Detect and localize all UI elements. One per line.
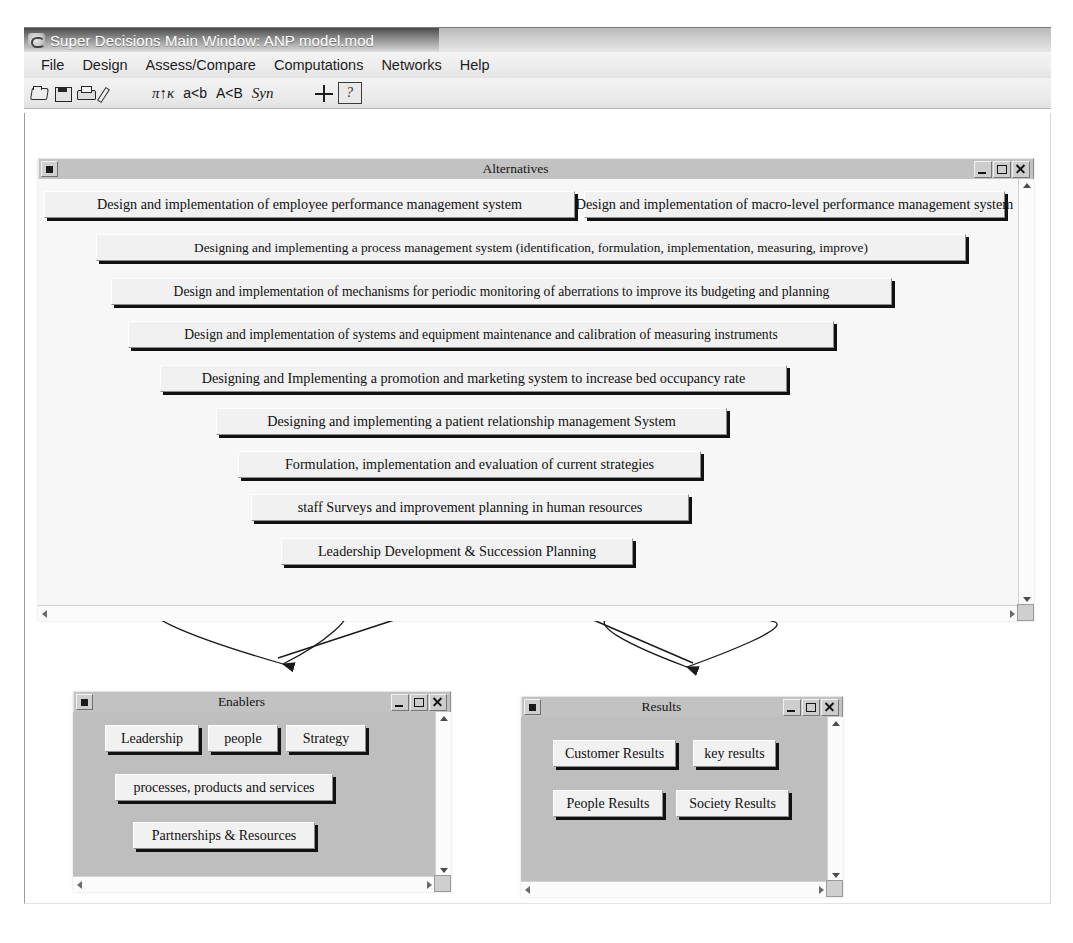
alternatives-close-button[interactable] [1012, 161, 1030, 178]
scroll-up-icon[interactable] [1023, 183, 1031, 188]
menu-bar: File Design Assess/Compare Computations … [24, 52, 1051, 78]
scroll-right-icon[interactable] [819, 886, 824, 894]
pencil-icon[interactable] [99, 84, 119, 103]
results-titlebar[interactable]: Results [521, 696, 843, 717]
window-titlebar[interactable]: Super Decisions Main Window: ANP model.m… [24, 27, 1051, 52]
toolbar-A-lt-B-button[interactable]: A<B [216, 85, 243, 101]
results-window[interactable]: Results Customer Results key results Peo… [521, 696, 843, 896]
enablers-horizontal-scrollbar[interactable] [73, 876, 436, 892]
results-vertical-scrollbar[interactable] [827, 717, 843, 882]
node-alternative-3[interactable]: Designing and implementing a process man… [96, 234, 966, 261]
alternatives-resize-grip[interactable] [1017, 604, 1034, 621]
alternatives-titlebar[interactable]: Alternatives [38, 158, 1034, 179]
superdecisions-logo-icon [28, 33, 45, 48]
enablers-maximize-button[interactable] [410, 694, 428, 711]
enablers-vertical-scrollbar[interactable] [435, 712, 451, 877]
enablers-resize-grip[interactable] [434, 875, 451, 892]
results-maximize-button[interactable] [802, 699, 820, 716]
node-alternative-7[interactable]: Designing and implementing a patient rel… [216, 408, 727, 435]
node-enabler-strategy[interactable]: Strategy [286, 725, 366, 752]
titlebar-filler [439, 28, 1051, 52]
menu-item-file[interactable]: File [32, 55, 73, 75]
mdi-desktop: Alternatives Design and implementation o… [24, 113, 1051, 904]
results-minimize-button[interactable] [783, 699, 801, 716]
node-enabler-partnerships-resources[interactable]: Partnerships & Resources [133, 822, 315, 849]
enablers-window[interactable]: Enablers Leadership people Strategy proc… [73, 691, 451, 891]
scroll-left-icon[interactable] [77, 881, 82, 889]
open-folder-icon[interactable] [30, 84, 50, 103]
node-enabler-people[interactable]: people [208, 725, 278, 752]
alternatives-system-menu-icon[interactable] [41, 161, 58, 177]
alternatives-maximize-button[interactable] [993, 161, 1011, 178]
node-alternative-8[interactable]: Formulation, implementation and evaluati… [238, 451, 701, 478]
scroll-down-icon[interactable] [1023, 597, 1031, 602]
enablers-close-button[interactable] [429, 694, 447, 711]
results-resize-grip[interactable] [826, 880, 843, 897]
results-window-title: Results [541, 699, 782, 715]
alternatives-horizontal-scrollbar[interactable] [38, 605, 1019, 621]
scroll-left-icon[interactable] [42, 610, 47, 618]
alternatives-minimize-button[interactable] [974, 161, 992, 178]
scroll-down-icon[interactable] [832, 873, 840, 878]
crosshair-icon[interactable] [313, 84, 335, 103]
results-window-controls [782, 699, 839, 716]
print-icon[interactable] [76, 84, 96, 103]
save-disk-icon[interactable] [53, 84, 73, 103]
toolbar-a-lt-b-button[interactable]: a<b [183, 85, 207, 101]
enablers-window-title: Enablers [93, 694, 390, 710]
node-result-key-results[interactable]: key results [693, 740, 776, 767]
enablers-minimize-button[interactable] [391, 694, 409, 711]
menu-item-networks[interactable]: Networks [372, 55, 450, 75]
results-system-menu-icon[interactable] [524, 699, 541, 715]
scroll-down-icon[interactable] [440, 868, 448, 873]
menu-item-help[interactable]: Help [451, 55, 499, 75]
node-alternative-4[interactable]: Design and implementation of mechanisms … [111, 278, 892, 305]
results-close-button[interactable] [821, 699, 839, 716]
node-enabler-leadership[interactable]: Leadership [105, 725, 199, 752]
alternatives-window[interactable]: Alternatives Design and implementation o… [38, 158, 1034, 620]
window-title: Super Decisions Main Window: ANP model.m… [50, 32, 374, 49]
toolbar-syn-button[interactable]: Syn [252, 85, 274, 102]
node-alternative-2[interactable]: Design and implementation of macro-level… [584, 191, 1005, 218]
scroll-up-icon[interactable] [832, 721, 840, 726]
node-alternative-9[interactable]: staff Surveys and improvement planning i… [251, 494, 689, 521]
alternatives-window-controls [973, 161, 1030, 178]
toolbar-pi-kappa-button[interactable]: π↑κ [152, 85, 174, 102]
node-alternative-5[interactable]: Design and implementation of systems and… [128, 321, 834, 348]
enablers-canvas[interactable]: Leadership people Strategy processes, pr… [73, 712, 451, 892]
enablers-system-menu-icon[interactable] [76, 694, 93, 710]
menu-item-computations[interactable]: Computations [265, 55, 372, 75]
help-page-icon[interactable]: ? [338, 82, 362, 104]
results-horizontal-scrollbar[interactable] [521, 881, 828, 897]
self-loop-results [604, 614, 777, 667]
scroll-right-icon[interactable] [1010, 610, 1015, 618]
alternatives-canvas[interactable]: Design and implementation of employee pe… [38, 179, 1034, 621]
results-canvas[interactable]: Customer Results key results People Resu… [521, 717, 843, 897]
node-alternative-6[interactable]: Designing and Implementing a promotion a… [160, 365, 787, 392]
node-enabler-processes-products-services[interactable]: processes, products and services [115, 774, 333, 801]
node-alternative-10[interactable]: Leadership Development & Succession Plan… [281, 538, 633, 565]
node-alternative-1[interactable]: Design and implementation of employee pe… [44, 191, 575, 218]
toolbar: π↑κ a<b A<B Syn ? [24, 78, 1051, 109]
scroll-up-icon[interactable] [440, 716, 448, 721]
application-window: Super Decisions Main Window: ANP model.m… [24, 27, 1051, 113]
node-result-society-results[interactable]: Society Results [676, 790, 789, 817]
scroll-left-icon[interactable] [525, 886, 530, 894]
enablers-window-controls [390, 694, 447, 711]
alternatives-window-title: Alternatives [58, 161, 973, 177]
alternatives-vertical-scrollbar[interactable] [1018, 179, 1034, 606]
menu-item-assess-compare[interactable]: Assess/Compare [137, 55, 265, 75]
scroll-right-icon[interactable] [427, 881, 432, 889]
enablers-titlebar[interactable]: Enablers [73, 691, 451, 712]
node-result-customer-results[interactable]: Customer Results [553, 740, 676, 767]
node-result-people-results[interactable]: People Results [553, 790, 663, 817]
menu-item-design[interactable]: Design [73, 55, 136, 75]
